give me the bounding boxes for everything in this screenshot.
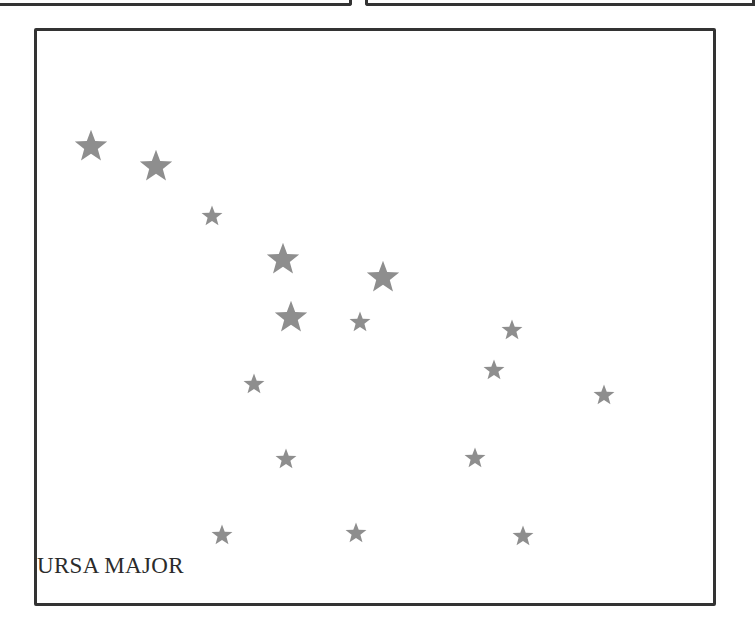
star-icon — [243, 373, 265, 395]
star-icon — [512, 525, 534, 547]
star-icon — [483, 359, 505, 381]
star-icon — [275, 448, 297, 470]
star-icon — [345, 522, 367, 544]
star-icon — [74, 129, 108, 163]
constellation-panel-frame — [34, 28, 716, 606]
star-icon — [139, 149, 173, 183]
star-icon — [501, 319, 523, 341]
star-icon — [266, 242, 300, 276]
star-icon — [349, 311, 371, 333]
star-icon — [274, 300, 308, 334]
star-icon — [464, 447, 486, 469]
star-icon — [366, 260, 400, 294]
star-icon — [593, 384, 615, 406]
top-left-panel-edge — [0, 0, 352, 6]
star-icon — [211, 524, 233, 546]
top-right-panel-edge — [365, 0, 755, 6]
star-icon — [201, 205, 223, 227]
constellation-label: URSA MAJOR — [37, 553, 184, 579]
